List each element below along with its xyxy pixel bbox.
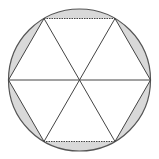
hexagon-in-circle-diagram	[0, 0, 159, 159]
